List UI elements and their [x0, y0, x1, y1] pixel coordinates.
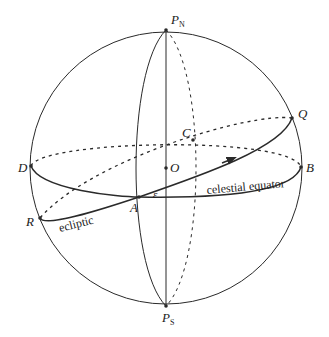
- celestial-sphere-diagram: PN PS O A B C D Q R ε celestial equator …: [0, 0, 329, 337]
- label-q: Q: [298, 106, 308, 121]
- meridian-front: [136, 30, 166, 306]
- label-north-pole: PN: [170, 12, 185, 29]
- point-b: [299, 165, 303, 169]
- label-c: C: [182, 125, 191, 140]
- label-b: B: [306, 160, 314, 175]
- north-pole-point: [164, 28, 168, 32]
- label-ecliptic: ecliptic: [57, 213, 95, 235]
- point-q: [290, 116, 294, 120]
- point-c: [191, 138, 195, 142]
- label-a: A: [129, 200, 138, 215]
- point-d: [29, 164, 33, 168]
- label-celestial-equator: celestial equator: [206, 176, 285, 197]
- point-r: [38, 216, 42, 220]
- label-o: O: [170, 160, 180, 175]
- diagram-canvas: PN PS O A B C D Q R ε celestial equator …: [0, 0, 329, 337]
- label-r: R: [25, 214, 34, 229]
- south-pole-point: [164, 304, 168, 308]
- label-epsilon-angle: ε: [153, 188, 158, 200]
- point-a: [137, 195, 141, 199]
- center-point-o: [164, 166, 168, 170]
- label-d: D: [17, 160, 28, 175]
- label-south-pole: PS: [161, 310, 174, 327]
